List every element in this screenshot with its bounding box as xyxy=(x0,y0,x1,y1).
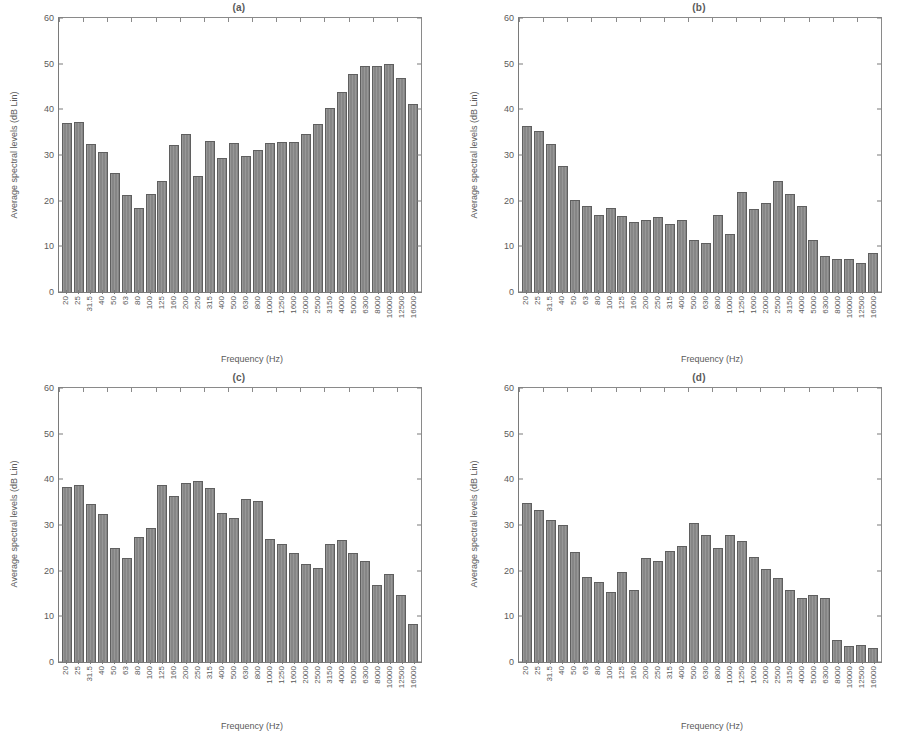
y-tick-mark-right xyxy=(417,570,421,571)
bar xyxy=(677,546,687,662)
top-tick-mark xyxy=(664,18,665,22)
bar xyxy=(408,624,418,662)
bar xyxy=(570,200,580,292)
x-tick: 4000 xyxy=(336,664,348,710)
x-tick-label: 63 xyxy=(582,296,590,305)
x-tick-label: 6300 xyxy=(362,666,370,684)
bar xyxy=(677,220,687,292)
x-tick: 80 xyxy=(132,294,144,340)
x-tick: 630 xyxy=(700,664,712,710)
bar-cell xyxy=(395,388,407,662)
bar-cell xyxy=(688,18,700,292)
bar xyxy=(360,561,370,662)
y-tick-mark-right xyxy=(877,155,881,156)
bar xyxy=(713,215,723,292)
bar-cell xyxy=(359,18,371,292)
x-tick: 8000 xyxy=(832,664,844,710)
y-tick-label: 30 xyxy=(504,520,519,530)
y-tick-mark-right xyxy=(877,109,881,110)
x-tick: 500 xyxy=(228,664,240,710)
top-tick-mark xyxy=(107,388,108,392)
x-tick-label: 315 xyxy=(206,296,214,309)
bar-cell xyxy=(240,18,252,292)
bar xyxy=(629,222,639,292)
x-tick: 2500 xyxy=(312,294,324,340)
panel-title: (c) xyxy=(0,372,460,383)
x-tick-mark xyxy=(330,290,331,294)
y-tick-mark xyxy=(519,155,523,156)
bar xyxy=(820,256,830,292)
x-tick-mark xyxy=(574,660,575,664)
x-tick-mark xyxy=(198,290,199,294)
x-tick: 2000 xyxy=(300,294,312,340)
x-tick-label: 250 xyxy=(194,666,202,679)
bar-series xyxy=(519,18,881,292)
x-tick-label: 2000 xyxy=(762,666,770,684)
x-tick-label: 16000 xyxy=(410,296,418,318)
x-tick: 6300 xyxy=(820,664,832,710)
x-tick-label: 8000 xyxy=(834,666,842,684)
top-tick-mark xyxy=(519,18,520,22)
bar-cell xyxy=(688,388,700,662)
y-tick-mark-right xyxy=(417,479,421,480)
y-tick-mark-right xyxy=(877,525,881,526)
x-tick-mark xyxy=(826,290,827,294)
bar-cell xyxy=(808,388,820,662)
x-tick: 25 xyxy=(72,664,84,710)
bar-cell xyxy=(640,388,652,662)
bar-cell xyxy=(312,18,324,292)
x-tick: 800 xyxy=(252,294,264,340)
bar xyxy=(313,568,323,662)
bar-cell xyxy=(192,388,204,662)
x-tick-mark xyxy=(402,660,403,664)
bar xyxy=(229,518,239,662)
bar-cell xyxy=(85,18,97,292)
x-tick-mark xyxy=(378,660,379,664)
x-tick-label: 3150 xyxy=(786,296,794,314)
top-tick-mark xyxy=(373,18,374,22)
top-tick-mark xyxy=(397,388,398,392)
x-tick-mark xyxy=(550,660,551,664)
x-tick: 160 xyxy=(628,294,640,340)
top-tick-mark xyxy=(688,18,689,22)
panel-c: (c) Average spectral levels (dB Lin) 010… xyxy=(0,370,460,737)
top-tick-mark xyxy=(324,18,325,22)
x-tick: 250 xyxy=(192,664,204,710)
bar-cell xyxy=(819,388,831,662)
x-tick-mark xyxy=(766,660,767,664)
bar-cell xyxy=(772,18,784,292)
top-tick-mark xyxy=(809,388,810,392)
x-tick-mark xyxy=(282,290,283,294)
x-tick-mark xyxy=(622,660,623,664)
x-tick: 3150 xyxy=(784,294,796,340)
x-tick: 31.5 xyxy=(544,664,556,710)
bar-cell xyxy=(264,388,276,662)
y-tick-mark xyxy=(59,570,63,571)
x-tick-mark xyxy=(598,290,599,294)
bar xyxy=(534,510,544,662)
x-tick: 8000 xyxy=(372,294,384,340)
bar-cell xyxy=(748,388,760,662)
top-tick-mark xyxy=(640,388,641,392)
y-tick-mark xyxy=(519,433,523,434)
bar-cell xyxy=(336,18,348,292)
x-tick-mark xyxy=(754,290,755,294)
bar xyxy=(689,523,699,662)
bar-cell xyxy=(724,18,736,292)
x-tick-mark xyxy=(270,290,271,294)
x-tick-mark xyxy=(586,290,587,294)
bar-cell xyxy=(652,388,664,662)
top-tick-mark xyxy=(83,388,84,392)
x-tick-mark xyxy=(814,290,815,294)
bar-cell xyxy=(533,388,545,662)
x-tick-mark xyxy=(138,660,139,664)
top-tick-mark xyxy=(228,388,229,392)
bar xyxy=(337,92,347,292)
bar xyxy=(594,215,604,292)
bar xyxy=(582,206,592,292)
x-tick-mark xyxy=(862,290,863,294)
x-tick-mark xyxy=(282,660,283,664)
bar xyxy=(289,142,299,292)
x-tick-label: 63 xyxy=(122,666,130,675)
x-tick-mark xyxy=(162,290,163,294)
